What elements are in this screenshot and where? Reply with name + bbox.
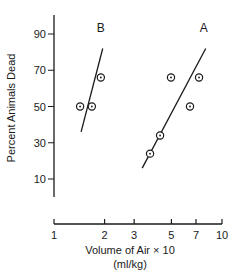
x-axis-units: (ml/kg) <box>113 258 147 270</box>
x-axis-title: Volume of Air × 10 <box>85 244 175 256</box>
data-point-dot <box>79 106 81 108</box>
series-label: A <box>200 21 208 35</box>
y-tick-label: 70 <box>34 64 46 76</box>
x-tick-label: 1 <box>51 229 57 241</box>
x-tick-label: 2 <box>102 229 108 241</box>
y-tick-label: 30 <box>34 137 46 149</box>
x-axis: 1235710 <box>51 219 228 241</box>
data-point-dot <box>189 106 191 108</box>
chart: 1030507090 1235710 BA Percent Animals De… <box>0 0 237 278</box>
data-point-dot <box>170 77 172 79</box>
x-tick-label: 10 <box>216 229 228 241</box>
series-a: A <box>142 21 208 168</box>
y-axis-title: Percent Animals Dead <box>5 54 17 163</box>
data-point-dot <box>91 106 93 108</box>
y-tick-label: 50 <box>34 101 46 113</box>
y-tick-label: 90 <box>34 28 46 40</box>
x-tick-label: 7 <box>193 229 199 241</box>
series-b: B <box>76 21 104 132</box>
series-label: B <box>97 21 105 35</box>
x-tick-label: 3 <box>131 229 137 241</box>
data-point-dot <box>198 77 200 79</box>
data-point-dot <box>149 153 151 155</box>
series-layer: BA <box>76 21 207 168</box>
y-tick-label: 10 <box>34 173 46 185</box>
y-axis: 1030507090 <box>34 15 54 197</box>
x-tick-label: 5 <box>168 229 174 241</box>
data-point-dot <box>100 77 102 79</box>
data-point-dot <box>159 135 161 137</box>
fit-line <box>81 49 103 132</box>
